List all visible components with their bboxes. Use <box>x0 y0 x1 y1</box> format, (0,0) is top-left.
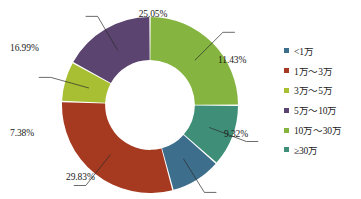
legend-swatch-icon <box>284 128 289 133</box>
legend-swatch-icon <box>284 147 289 152</box>
slice-percentage-label: 11.43% <box>218 55 246 65</box>
legend-item[interactable]: 5万～10万 <box>284 100 361 120</box>
legend-swatch-icon <box>284 108 289 113</box>
legend-item[interactable]: 10万～30万 <box>284 120 361 140</box>
slice-percentage-label: 9.32% <box>224 129 248 139</box>
legend-item[interactable]: <1万 <box>284 41 361 61</box>
donut-chart: 25.05%11.43%9.32%29.83%7.38%16.99% <1万1万… <box>0 0 361 199</box>
legend-item[interactable]: 1万～3万 <box>284 61 361 81</box>
slice-percentage-label: 25.05% <box>139 9 168 19</box>
legend-item-label: 1万～3万 <box>294 64 333 78</box>
donut-plot-area: 25.05%11.43%9.32%29.83%7.38%16.99% <box>0 0 272 199</box>
legend-item[interactable]: 3万～5万 <box>284 81 361 101</box>
legend-swatch-icon <box>284 68 289 73</box>
chart-legend: <1万1万～3万3万～5万5万～10万10万～30万≥30万 <box>284 41 361 160</box>
legend-item[interactable]: ≥30万 <box>284 140 361 160</box>
donut-svg <box>0 0 272 199</box>
slice-percentage-label: 16.99% <box>10 43 39 53</box>
legend-swatch-icon <box>284 88 289 93</box>
legend-item-label: 3万～5万 <box>294 83 333 97</box>
legend-item-label: <1万 <box>294 44 314 58</box>
legend-swatch-icon <box>284 48 289 53</box>
legend-item-label: ≥30万 <box>294 143 318 157</box>
slice-percentage-label: 29.83% <box>66 172 95 182</box>
slice-percentage-label: 7.38% <box>10 128 34 138</box>
legend-item-label: 10万～30万 <box>294 123 342 137</box>
legend-item-label: 5万～10万 <box>294 103 337 117</box>
